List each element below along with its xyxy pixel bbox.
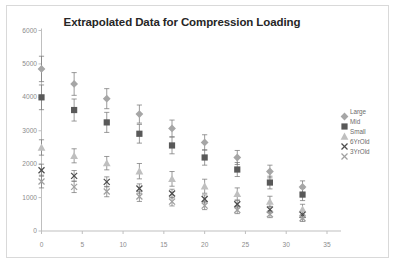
data-point-large bbox=[266, 168, 274, 176]
data-point-large bbox=[135, 110, 143, 118]
data-point-small bbox=[135, 167, 143, 174]
data-point-mid bbox=[234, 166, 240, 172]
data-point-small bbox=[38, 144, 46, 151]
data-point-mid bbox=[299, 191, 305, 197]
y-tick-label: 5000 bbox=[8, 60, 37, 67]
data-point-mid bbox=[202, 154, 208, 160]
legend-label: Large bbox=[350, 107, 366, 116]
data-point-large bbox=[168, 125, 176, 133]
chart-plot-area bbox=[0, 0, 395, 268]
data-point-large bbox=[38, 65, 46, 73]
x-tick-label: 30 bbox=[274, 241, 298, 248]
cross-marker-icon bbox=[340, 137, 349, 146]
x-tick-label: 15 bbox=[152, 241, 176, 248]
data-point-mid bbox=[169, 142, 175, 148]
data-point-mid bbox=[38, 94, 44, 100]
data-point-large bbox=[233, 154, 241, 162]
legend-item-mid[interactable]: Mid bbox=[340, 116, 370, 126]
chart-figure: Extrapolated Data for Compression Loadin… bbox=[0, 0, 395, 268]
y-tick-label: 4000 bbox=[8, 93, 37, 100]
data-point-large bbox=[299, 183, 307, 191]
data-point-mid bbox=[71, 107, 77, 113]
data-point-small bbox=[266, 198, 274, 205]
data-point-small bbox=[103, 159, 111, 166]
legend-item-3yrold[interactable]: 3YrOld bbox=[340, 147, 370, 157]
x-tick-label: 35 bbox=[315, 241, 339, 248]
data-point-mid bbox=[104, 119, 110, 125]
data-point-mid bbox=[136, 131, 142, 137]
y-tick-label: 0 bbox=[8, 227, 37, 234]
data-point-small bbox=[70, 152, 78, 159]
legend-label: 3YrOld bbox=[350, 147, 370, 156]
y-tick-label: 3000 bbox=[8, 127, 37, 134]
diamond-marker-icon bbox=[340, 107, 349, 116]
data-point-mid bbox=[267, 179, 273, 185]
cross-marker-icon bbox=[340, 147, 349, 156]
error-bars-group bbox=[39, 56, 305, 221]
square-marker-icon bbox=[340, 117, 349, 126]
legend-label: Mid bbox=[350, 117, 360, 126]
chart-legend: LargeMidSmall6YrOld3YrOld bbox=[340, 106, 370, 157]
x-tick-label: 20 bbox=[193, 241, 217, 248]
x-tick-label: 10 bbox=[111, 241, 135, 248]
y-tick-label: 6000 bbox=[8, 27, 37, 34]
data-point-large bbox=[70, 80, 78, 88]
y-tick-label: 1000 bbox=[8, 194, 37, 201]
data-point-small bbox=[168, 175, 176, 182]
x-tick-label: 0 bbox=[30, 241, 54, 248]
y-tick-label: 2000 bbox=[8, 160, 37, 167]
legend-label: 6YrOld bbox=[350, 137, 370, 146]
triangle-marker-icon bbox=[340, 127, 349, 136]
legend-item-large[interactable]: Large bbox=[340, 106, 370, 116]
legend-item-6yrold[interactable]: 6YrOld bbox=[340, 137, 370, 147]
x-tick-label: 25 bbox=[233, 241, 257, 248]
legend-label: Small bbox=[350, 127, 366, 136]
x-tick-label: 5 bbox=[70, 241, 94, 248]
legend-item-small[interactable]: Small bbox=[340, 126, 370, 136]
data-point-large bbox=[103, 95, 111, 103]
data-point-small bbox=[233, 190, 241, 197]
data-point-small bbox=[201, 182, 209, 189]
data-point-large bbox=[201, 139, 209, 147]
